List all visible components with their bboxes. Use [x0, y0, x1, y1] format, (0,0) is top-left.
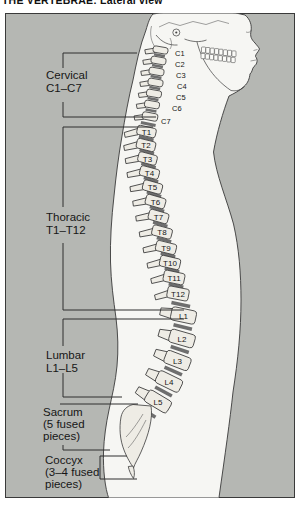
vertebra-label-T8: T8: [157, 228, 167, 237]
vertebra-label-C5: C5: [176, 93, 186, 102]
vertebra-label-T1: T1: [142, 128, 152, 137]
tooth-upper: [232, 51, 236, 57]
tooth-lower: [223, 56, 227, 61]
region-label-thoracic-line1: T1–T12: [46, 224, 86, 236]
vertebra-label-T4: T4: [145, 169, 155, 178]
vertebra-label-C3: C3: [176, 71, 186, 80]
vertebra-label-C7: C7: [161, 117, 171, 126]
region-label-thoracic-line0: Thoracic: [46, 211, 90, 223]
region-label-coccyx-line1: (3–4 fused: [45, 466, 99, 478]
vertebra-label-L1: L1: [179, 312, 188, 321]
tooth-lower: [205, 54, 209, 59]
region-label-coccyx-line2: pieces): [45, 478, 82, 490]
vertebra-label-T2: T2: [141, 141, 151, 150]
tooth-lower: [218, 56, 222, 61]
tooth-lower: [201, 53, 205, 58]
region-label-lumbar-line0: Lumbar: [46, 349, 85, 361]
vertebra-label-T12: T12: [171, 290, 185, 299]
vertebra-label-L4: L4: [165, 378, 174, 387]
tooth-upper: [219, 49, 223, 55]
page: THE VERTEBRAE: Lateral view: [0, 0, 300, 505]
vertebra-label-L2: L2: [178, 335, 187, 344]
vertebra-label-T6: T6: [151, 198, 161, 207]
tooth-lower: [214, 55, 218, 60]
vertebra-label-T7: T7: [154, 213, 164, 222]
region-label-sacrum-line1: (5 fused: [43, 418, 85, 430]
vertebra-label-C2: C2: [175, 60, 185, 69]
region-label-cervical-line1: C1–C7: [46, 82, 82, 94]
tooth-upper: [210, 48, 214, 54]
vertebra-label-L5: L5: [154, 398, 163, 407]
vertebrae-figure: CervicalC1–C7ThoracicT1–T12LumbarL1–L5Sa…: [0, 0, 300, 505]
skull-ear-canal-center: [175, 31, 177, 33]
region-label-sacrum-line2: pieces): [43, 430, 80, 442]
region-label-sacrum-line0: Sacrum: [43, 406, 83, 418]
tooth-lower: [227, 57, 231, 62]
region-label-cervical-line0: Cervical: [46, 69, 88, 81]
tooth-lower: [210, 55, 214, 60]
vertebra-label-C6: C6: [172, 104, 182, 113]
vertebra-label-T10: T10: [163, 259, 177, 268]
vertebra-label-T11: T11: [167, 274, 181, 283]
vertebra-label-C4: C4: [177, 82, 187, 91]
vertebra-label-T3: T3: [143, 155, 153, 164]
tooth-upper: [206, 48, 210, 54]
tooth-upper: [202, 47, 206, 53]
tooth-lower: [231, 57, 235, 62]
region-label-coccyx-line0: Coccyx: [45, 454, 83, 466]
tooth-upper: [223, 50, 227, 56]
vertebra-label-L3: L3: [173, 357, 182, 366]
vertebra-label-T5: T5: [148, 183, 158, 192]
vertebra-label-C1: C1: [175, 49, 185, 58]
vertebra-label-T9: T9: [161, 244, 171, 253]
tooth-upper: [215, 49, 219, 55]
region-label-lumbar-line1: L1–L5: [46, 362, 78, 374]
tooth-upper: [228, 50, 232, 56]
